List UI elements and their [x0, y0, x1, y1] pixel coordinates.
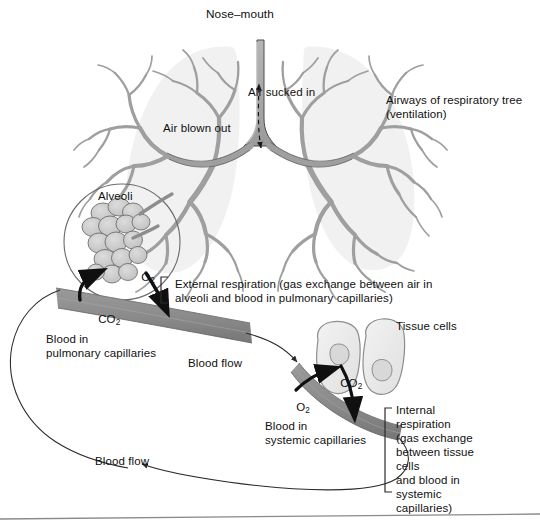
label-co2-pulmonary: CO2	[85, 299, 120, 340]
co2-tissue-subscript: 2	[358, 381, 363, 390]
label-external-respiration-line1: External respiration (gas exchange betwe…	[175, 278, 432, 292]
label-internal-respiration-3: between tissue	[396, 446, 474, 460]
co2-pulmonary-text: CO	[98, 313, 115, 325]
co2-tissue-text: CO	[340, 377, 357, 389]
label-airways-line2: (ventilation)	[386, 108, 447, 122]
o2-alveoli-subscript: 2	[150, 275, 155, 284]
o2-alveoli-text: O	[141, 271, 150, 283]
label-tissue-cells: Tissue cells	[396, 320, 457, 334]
label-internal-respiration-4: cells	[396, 460, 420, 474]
co2-pulmonary-subscript: 2	[116, 317, 121, 326]
label-internal-respiration-5: and blood in	[396, 474, 460, 488]
label-blood-systemic-line2: systemic capillaries	[265, 434, 366, 448]
label-blood-pulmonary-line2: pulmonary capillaries	[46, 347, 156, 361]
label-blood-systemic-line1: Blood in	[265, 420, 307, 434]
label-alveoli: Alveoli	[98, 190, 133, 204]
label-co2-tissue: CO2	[327, 363, 362, 404]
label-air-blown-out: Air blown out	[163, 122, 231, 136]
label-internal-respiration-6: systemic	[396, 488, 442, 502]
label-internal-respiration-2: (gas exchange	[396, 432, 473, 446]
o2-systemic-subscript: 2	[305, 405, 310, 414]
blood-flow-arrow-to-systemic	[246, 333, 297, 362]
label-o2-alveoli: O2	[128, 257, 155, 298]
label-air-sucked-in: Air sucked in	[248, 86, 315, 100]
label-external-respiration-line2: alveoli and blood in pulmonary capillari…	[175, 292, 393, 306]
internal-respiration-bracket	[385, 408, 392, 492]
bottom-rule	[0, 514, 540, 519]
label-internal-respiration-7: capillaries)	[396, 502, 452, 516]
label-airways-line1: Airways of respiratory tree	[386, 94, 522, 108]
label-internal-respiration-0: Internal	[396, 404, 435, 418]
label-nose-mouth: Nose–mouth	[206, 8, 274, 22]
label-blood-flow-lower: Blood flow	[95, 455, 149, 469]
label-blood-flow-upper: Blood flow	[188, 357, 242, 371]
o2-systemic-text: O	[296, 401, 305, 413]
respiration-diagram: Nose–mouth Air sucked in Air blown out A…	[0, 0, 540, 530]
label-blood-pulmonary-line1: Blood in	[46, 333, 88, 347]
label-internal-respiration-1: respiration	[396, 418, 451, 432]
